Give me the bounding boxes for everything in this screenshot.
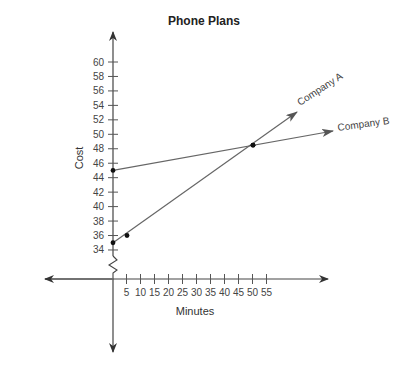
- x-tick-label: 40: [219, 287, 231, 298]
- series-lines: Company ACompany B: [111, 70, 391, 245]
- x-tick-label: 5: [124, 287, 130, 298]
- x-tick-label: 35: [205, 287, 217, 298]
- company-a-line: [113, 112, 297, 243]
- x-tick-label: 55: [261, 287, 273, 298]
- data-point: [111, 240, 116, 245]
- y-tick-label: 56: [93, 85, 105, 96]
- y-tick-label: 52: [93, 114, 105, 125]
- y-tick-label: 46: [93, 158, 105, 169]
- company-b-label: Company B: [337, 115, 391, 133]
- ticks: 3436384042444648505254565860510152025303…: [93, 57, 273, 299]
- y-tick-label: 54: [93, 100, 105, 111]
- y-axis-break: [109, 256, 117, 279]
- y-tick-label: 38: [93, 216, 105, 227]
- x-tick-label: 50: [247, 287, 259, 298]
- x-tick-label: 20: [163, 287, 175, 298]
- y-tick-label: 44: [93, 172, 105, 183]
- x-tick-label: 25: [177, 287, 189, 298]
- y-tick-label: 42: [93, 187, 105, 198]
- data-point: [125, 233, 130, 238]
- y-tick-label: 34: [93, 244, 105, 255]
- y-tick-label: 58: [93, 71, 105, 82]
- data-point: [111, 168, 116, 173]
- x-tick-label: 30: [191, 287, 203, 298]
- y-tick-label: 40: [93, 201, 105, 212]
- chart-plot: 3436384042444648505254565860510152025303…: [0, 0, 408, 374]
- axes: [45, 32, 328, 352]
- y-tick-label: 50: [93, 129, 105, 140]
- data-point: [251, 143, 256, 148]
- x-tick-label: 45: [233, 287, 245, 298]
- y-tick-label: 48: [93, 143, 105, 154]
- company-a-label: Company A: [295, 70, 345, 108]
- x-tick-label: 15: [149, 287, 161, 298]
- y-tick-label: 60: [93, 57, 105, 68]
- y-tick-label: 36: [93, 230, 105, 241]
- x-tick-label: 10: [135, 287, 147, 298]
